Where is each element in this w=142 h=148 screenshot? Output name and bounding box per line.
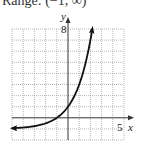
y-axis-label: y: [60, 10, 66, 22]
y-tick-label: 8: [61, 23, 67, 35]
x-tick-label: 5: [117, 121, 123, 133]
curve-series: [12, 29, 92, 128]
x-axis-arrow-icon: [128, 115, 134, 120]
x-axis-label: x: [127, 121, 133, 133]
left-arrow-icon: [10, 125, 17, 131]
axes: [12, 17, 134, 140]
graph: y x 8 5: [0, 0, 142, 148]
